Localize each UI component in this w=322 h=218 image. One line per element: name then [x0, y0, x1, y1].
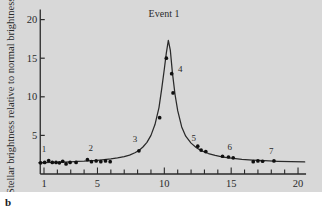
data-point [108, 160, 112, 164]
data-point [99, 160, 103, 164]
y-tick-label: 15 [27, 53, 38, 64]
data-point [68, 161, 72, 165]
data-point [94, 159, 98, 163]
y-tick-label: 5 [32, 130, 37, 141]
figure-panel: 510152015101520DaysStellar brightness re… [0, 0, 322, 192]
x-tick-label: 20 [293, 178, 304, 189]
x-tick-label: 10 [159, 178, 170, 189]
data-point [43, 161, 47, 165]
y-tick-label: 20 [27, 14, 38, 25]
data-point [86, 158, 90, 162]
data-point [231, 156, 235, 160]
panel-letter-label: b [5, 196, 11, 208]
data-point [199, 148, 203, 152]
data-point [39, 161, 43, 165]
data-point [47, 159, 51, 163]
data-point [90, 160, 94, 164]
point-annotation: 4 [178, 64, 183, 74]
data-point [170, 72, 174, 76]
data-point [171, 91, 175, 95]
data-point [272, 159, 276, 163]
data-point [104, 159, 108, 163]
data-point [196, 144, 200, 148]
data-point [61, 159, 65, 163]
data-point [54, 161, 58, 165]
x-tick-label: 1 [41, 178, 46, 189]
point-annotation: 3 [133, 134, 138, 144]
data-point [251, 160, 255, 164]
y-tick-label: 10 [27, 91, 38, 102]
data-point [74, 161, 78, 165]
data-point [50, 161, 54, 165]
data-point [137, 149, 141, 153]
point-annotation: 6 [228, 142, 233, 152]
data-point [164, 56, 168, 60]
data-point [261, 159, 265, 163]
data-point [256, 159, 260, 163]
y-axis-title: Stellar brightness relative to normal br… [5, 0, 16, 192]
point-annotation: 2 [89, 143, 94, 153]
point-annotation: 1 [42, 144, 47, 154]
chart-title: Event 1 [149, 8, 180, 19]
x-tick-label: 15 [226, 178, 237, 189]
x-tick-label: 5 [95, 178, 100, 189]
data-point [158, 116, 162, 120]
data-point [64, 162, 68, 166]
data-point [58, 161, 62, 165]
light-curve-chart: 510152015101520DaysStellar brightness re… [0, 0, 322, 192]
light-curve-line [39, 40, 305, 162]
point-annotation: 5 [191, 133, 196, 143]
data-point [221, 154, 225, 158]
data-point [204, 150, 208, 154]
point-annotation: 7 [269, 146, 274, 156]
data-point [227, 155, 231, 159]
